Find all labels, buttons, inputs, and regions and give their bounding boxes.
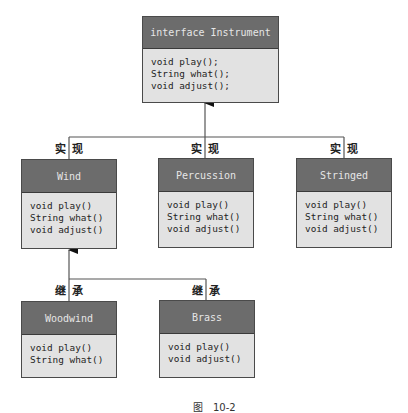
- class-percussion-methods: void play() String what() void adjust(): [159, 192, 253, 235]
- figure-caption-number: 10-2: [213, 402, 236, 413]
- method: String what(): [167, 211, 253, 223]
- wind-relation-label-left: 实: [55, 144, 66, 156]
- class-brass-box: Brass void play() void adjust(): [159, 300, 255, 378]
- brass-relation-label-left: 继: [192, 286, 203, 298]
- class-stringed-title: Stringed: [320, 170, 368, 181]
- method: void play(): [30, 342, 116, 354]
- interface-instrument-methods: void play(); String what(); void adjust(…: [143, 49, 278, 92]
- class-wind-header: Wind: [22, 160, 116, 193]
- method: String what();: [151, 68, 278, 80]
- method: void play(): [167, 199, 253, 211]
- class-woodwind-box: Woodwind void play() String what(): [21, 301, 117, 378]
- method: void adjust(): [167, 223, 253, 235]
- method: void adjust(): [168, 353, 254, 365]
- method: void adjust(): [305, 223, 391, 235]
- method: void play(): [30, 200, 116, 212]
- method: void play(): [305, 199, 391, 211]
- method: void play(): [168, 341, 254, 353]
- class-wind-box: Wind void play() String what() void adju…: [21, 159, 117, 249]
- caption-spacer: [203, 402, 213, 413]
- class-wind-title: Wind: [57, 171, 81, 182]
- class-percussion-box: Percussion void play() String what() voi…: [158, 158, 254, 248]
- woodwind-relation-label-right: 承: [72, 286, 83, 298]
- class-brass-title: Brass: [192, 312, 222, 323]
- method: void adjust();: [151, 80, 278, 92]
- stringed-relation-label-right: 现: [347, 144, 358, 156]
- method: void adjust(): [30, 224, 116, 236]
- class-stringed-header: Stringed: [297, 159, 391, 192]
- woodwind-relation-label-left: 继: [55, 286, 66, 298]
- class-woodwind-methods: void play() String what(): [22, 335, 116, 366]
- interface-instrument-title: interface Instrument: [150, 27, 270, 38]
- class-brass-header: Brass: [160, 301, 254, 334]
- wind-relation-label-right: 现: [72, 144, 83, 156]
- class-percussion-title: Percussion: [176, 170, 236, 181]
- figure-caption-prefix: 图: [193, 402, 203, 413]
- method: String what(): [305, 211, 391, 223]
- method: void play();: [151, 56, 278, 68]
- class-percussion-header: Percussion: [159, 159, 253, 192]
- class-woodwind-title: Woodwind: [45, 313, 93, 324]
- stringed-relation-label-left: 实: [330, 144, 341, 156]
- class-woodwind-header: Woodwind: [22, 302, 116, 335]
- brass-relation-label-right: 承: [209, 286, 220, 298]
- interface-instrument-box: interface Instrument void play(); String…: [142, 16, 279, 103]
- interface-instrument-header: interface Instrument: [143, 17, 278, 49]
- class-wind-methods: void play() String what() void adjust(): [22, 193, 116, 236]
- class-stringed-box: Stringed void play() String what() void …: [296, 158, 392, 248]
- percussion-relation-label-left: 实: [191, 144, 202, 156]
- percussion-relation-label-right: 现: [208, 144, 219, 156]
- class-brass-methods: void play() void adjust(): [160, 334, 254, 365]
- class-stringed-methods: void play() String what() void adjust(): [297, 192, 391, 235]
- method: String what(): [30, 354, 116, 366]
- figure-caption: 图 10-2: [187, 388, 236, 413]
- method: String what(): [30, 212, 116, 224]
